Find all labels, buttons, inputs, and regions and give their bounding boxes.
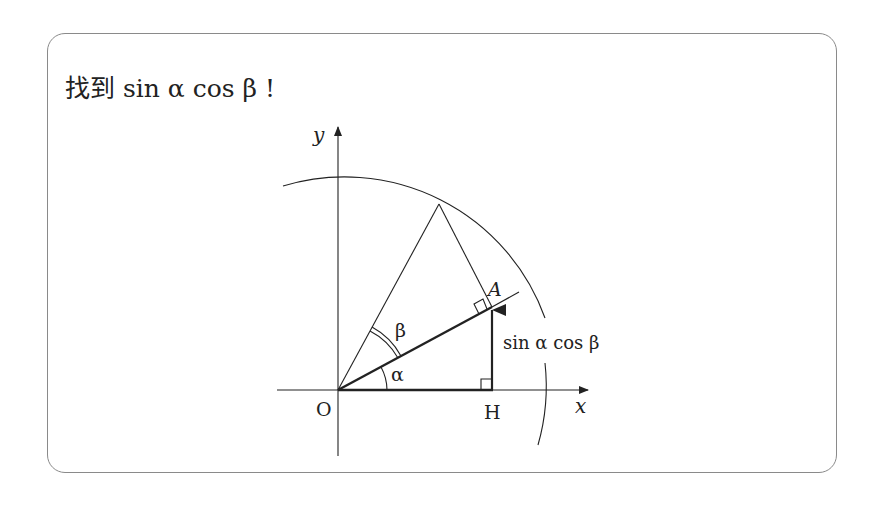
angle-alpha-arc	[381, 367, 387, 390]
point-a-label: A	[486, 278, 502, 300]
point-o-label: O	[316, 398, 332, 420]
segment-ha-label: sin α cos β	[503, 332, 599, 353]
unit-circle-arc-lower	[538, 363, 546, 445]
point-h-label: H	[484, 401, 501, 423]
trig-diagram: y x O H A α β sin α cos β	[0, 0, 885, 531]
unit-circle-arc-upper	[283, 177, 545, 318]
angle-beta-label: β	[395, 319, 406, 341]
x-axis-label: x	[575, 394, 586, 418]
perpendicular-pa	[439, 204, 492, 307]
angle-alpha-label: α	[391, 363, 404, 385]
y-axis-label: y	[312, 123, 325, 147]
right-angle-h	[481, 379, 492, 390]
